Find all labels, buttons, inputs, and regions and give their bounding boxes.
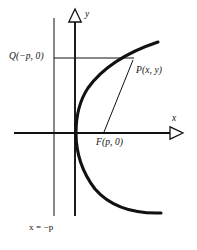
label-point-q: Q(−p, 0) bbox=[9, 52, 44, 62]
parabola-figure: Q(−p, 0) P(x, y) F(p, 0) y x x = −p bbox=[0, 0, 197, 250]
y-axis-arrowhead bbox=[69, 9, 81, 22]
label-point-f: F(p, 0) bbox=[96, 138, 123, 148]
x-axis-arrowhead bbox=[170, 127, 183, 139]
label-x-axis: x bbox=[172, 114, 176, 124]
label-point-p: P(x, y) bbox=[136, 66, 162, 76]
label-y-axis: y bbox=[85, 10, 89, 20]
segment-fp bbox=[104, 60, 133, 132]
label-directrix: x = −p bbox=[29, 223, 53, 232]
figure-canvas bbox=[0, 0, 197, 250]
